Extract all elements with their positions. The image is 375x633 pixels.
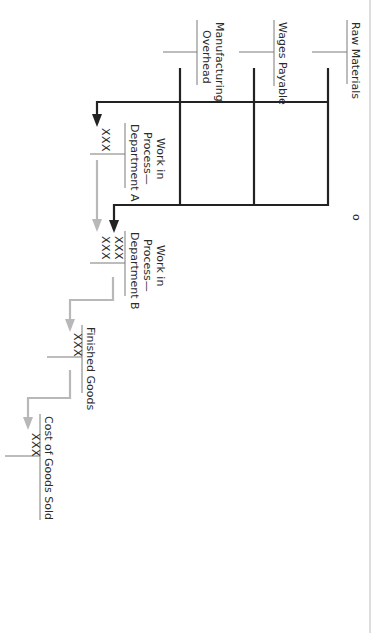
account-title-finished-goods: Finished Goods [84,327,97,411]
t-account-manufacturing-overhead: Manufacturing Overhead [163,20,226,102]
debit-entry-wip-b-1: XXX [112,236,125,260]
account-title-wip-b-line2: Process— [141,239,154,292]
account-title-wages-payable: Wages Payable [276,22,289,105]
t-account-wip-dept-a: Work in Process— Department A XXX [90,123,167,202]
debit-entry-wip-a: XXX [99,128,112,152]
account-title-wip-a-line1: Work in [154,138,167,179]
debit-entry-wip-b-2: XXX [99,236,112,260]
account-title-wip-b-line1: Work in [154,245,167,286]
account-title-wip-b-line3: Department B [128,232,141,310]
debit-entry-cogs: XXX [29,433,42,457]
t-account-cogs: Cost of Goods Sold XXX [5,414,55,520]
account-title-mfg-overhead-line2: Overhead [200,30,213,84]
arrowhead-gray-to-cogs-icon [23,417,33,430]
account-title-mfg-overhead-line1: Manufacturing [213,22,226,102]
debit-entry-finished-goods: XXX [71,333,84,357]
arrowhead-gray-to-finished-goods-icon [65,319,75,332]
secondary-flow-wip-b-to-finished-goods [65,277,113,332]
account-title-wip-a-line3: Department A [128,124,141,202]
t-account-raw-materials: Raw Materials [312,20,362,99]
t-account-wip-dept-b: Work in Process— Department B XXX XXX [90,231,167,310]
secondary-flow-wip-a-to-wip-b [92,160,102,232]
arrowhead-gray-to-wip-b-icon [92,219,102,232]
t-account-wages-payable: Wages Payable [239,20,289,105]
account-title-cogs: Cost of Goods Sold [42,416,55,520]
arrowhead-to-wip-b-icon [109,220,119,233]
arrowhead-to-wip-a-icon [92,114,102,127]
account-title-wip-a-line2: Process— [141,132,154,185]
page-mark: o [350,214,363,221]
account-title-raw-materials: Raw Materials [349,22,362,99]
cost-flow-diagram: o Raw Materials Wages Payable Manufactur… [0,0,375,633]
